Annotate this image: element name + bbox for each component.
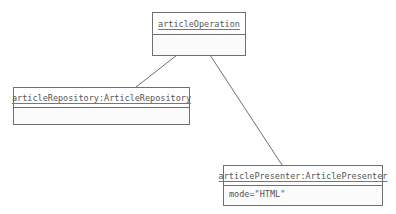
object-name-compartment: articlePresenter:ArticlePresenter bbox=[224, 166, 382, 186]
object-name: articleRepository:ArticleRepository bbox=[12, 93, 191, 103]
object-name: articlePresenter:ArticlePresenter bbox=[219, 171, 388, 181]
object-article-operation[interactable]: articleOperation bbox=[152, 12, 246, 56]
link-operation-repository bbox=[136, 55, 177, 87]
object-name-compartment: articleRepository:ArticleRepository bbox=[14, 88, 189, 108]
link-operation-presenter bbox=[210, 55, 282, 165]
object-name: articleOperation bbox=[158, 19, 240, 29]
object-article-repository[interactable]: articleRepository:ArticleRepository bbox=[13, 87, 190, 125]
object-article-presenter[interactable]: articlePresenter:ArticlePresenter mode="… bbox=[223, 165, 383, 206]
attributes-compartment bbox=[153, 35, 245, 41]
attributes-compartment bbox=[14, 108, 189, 114]
attribute-mode: mode="HTML" bbox=[229, 189, 377, 199]
object-name-compartment: articleOperation bbox=[153, 13, 245, 35]
uml-object-diagram: articleOperation articleRepository:Artic… bbox=[0, 0, 396, 214]
attributes-compartment: mode="HTML" bbox=[224, 186, 382, 202]
